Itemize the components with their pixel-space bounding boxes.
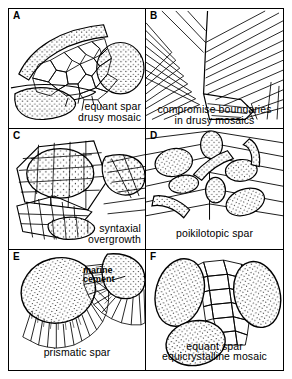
panel-d: D poikilotopic spar bbox=[146, 129, 283, 249]
panel-d-caption: poikilotopic spar bbox=[146, 228, 283, 239]
panel-b: B compromise boundaries in drusy mosaics bbox=[146, 9, 283, 129]
panel-letter-e: E bbox=[13, 252, 20, 262]
panel-d-caption-line1: poikilotopic spar bbox=[146, 228, 283, 239]
panel-e: E marine cement prismatic spar bbox=[9, 250, 146, 370]
panel-f: F equant spar equicrystalline mosaic bbox=[146, 250, 283, 370]
panel-c-caption-line2: overgrowth bbox=[88, 234, 141, 245]
panel-letter-c: C bbox=[13, 131, 20, 141]
panel-e-annotation: marine cement bbox=[83, 266, 115, 284]
cement-fabrics-figure: A equant spar drusy mosaic bbox=[0, 0, 292, 379]
panel-letter-a: A bbox=[13, 11, 20, 21]
panel-letter-d: D bbox=[150, 131, 157, 141]
panel-grid: A equant spar drusy mosaic bbox=[8, 8, 284, 371]
panel-c: C syntaxial overgrowth bbox=[9, 129, 146, 249]
panel-e-caption: prismatic spar bbox=[9, 347, 145, 358]
panel-a-caption-line2: drusy mosaic bbox=[78, 112, 141, 123]
panel-e-annotation-line2: cement bbox=[83, 275, 115, 284]
panel-c-caption: syntaxial overgrowth bbox=[88, 223, 141, 244]
panel-b-caption: compromise boundaries in drusy mosaics bbox=[146, 104, 283, 125]
panel-letter-b: B bbox=[150, 11, 157, 21]
panel-a-caption: equant spar drusy mosaic bbox=[78, 101, 141, 122]
panel-letter-f: F bbox=[150, 252, 156, 262]
panel-b-caption-line2: in drusy mosaics bbox=[146, 115, 283, 126]
panel-e-caption-line1: prismatic spar bbox=[9, 347, 145, 358]
panel-f-caption: equant spar equicrystalline mosaic bbox=[146, 341, 283, 362]
panel-f-caption-line2: equicrystalline mosaic bbox=[146, 351, 283, 362]
panel-a: A equant spar drusy mosaic bbox=[9, 9, 146, 129]
